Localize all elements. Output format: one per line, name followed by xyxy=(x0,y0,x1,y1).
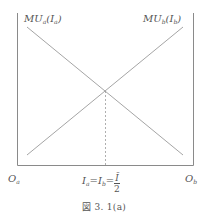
figure-caption: 図 3. 1(a) xyxy=(82,200,126,213)
mu-a-label-main: MU xyxy=(24,13,43,24)
origin-b-main: O xyxy=(185,173,193,184)
eq-equals-1: = xyxy=(90,175,98,186)
mu-b-label-main: MU xyxy=(143,13,162,24)
origin-a-label: Oa xyxy=(8,174,20,185)
eq-frac-denominator: 2 xyxy=(114,185,120,194)
eq-frac-numerator: Ī xyxy=(114,174,120,183)
mu-a-label-sub: a xyxy=(43,18,47,25)
origin-a-sub: a xyxy=(16,178,20,185)
equilibrium-label: Ia=Ib=Ī2 xyxy=(82,171,120,191)
mu-a-arg-sub: a xyxy=(54,18,58,25)
mu-b-label: MUb(Ib) xyxy=(143,14,181,25)
origin-a-main: O xyxy=(8,173,16,184)
mu-b-arg-sub: b xyxy=(173,18,177,25)
eq-equals-2: = xyxy=(106,175,114,186)
mu-b-label-sub: b xyxy=(162,18,166,25)
origin-b-sub: b xyxy=(193,178,197,185)
eq-fraction: Ī2 xyxy=(114,174,120,194)
mu-a-label: MUa(Ia) xyxy=(24,14,62,25)
origin-b-label: Ob xyxy=(185,174,197,185)
